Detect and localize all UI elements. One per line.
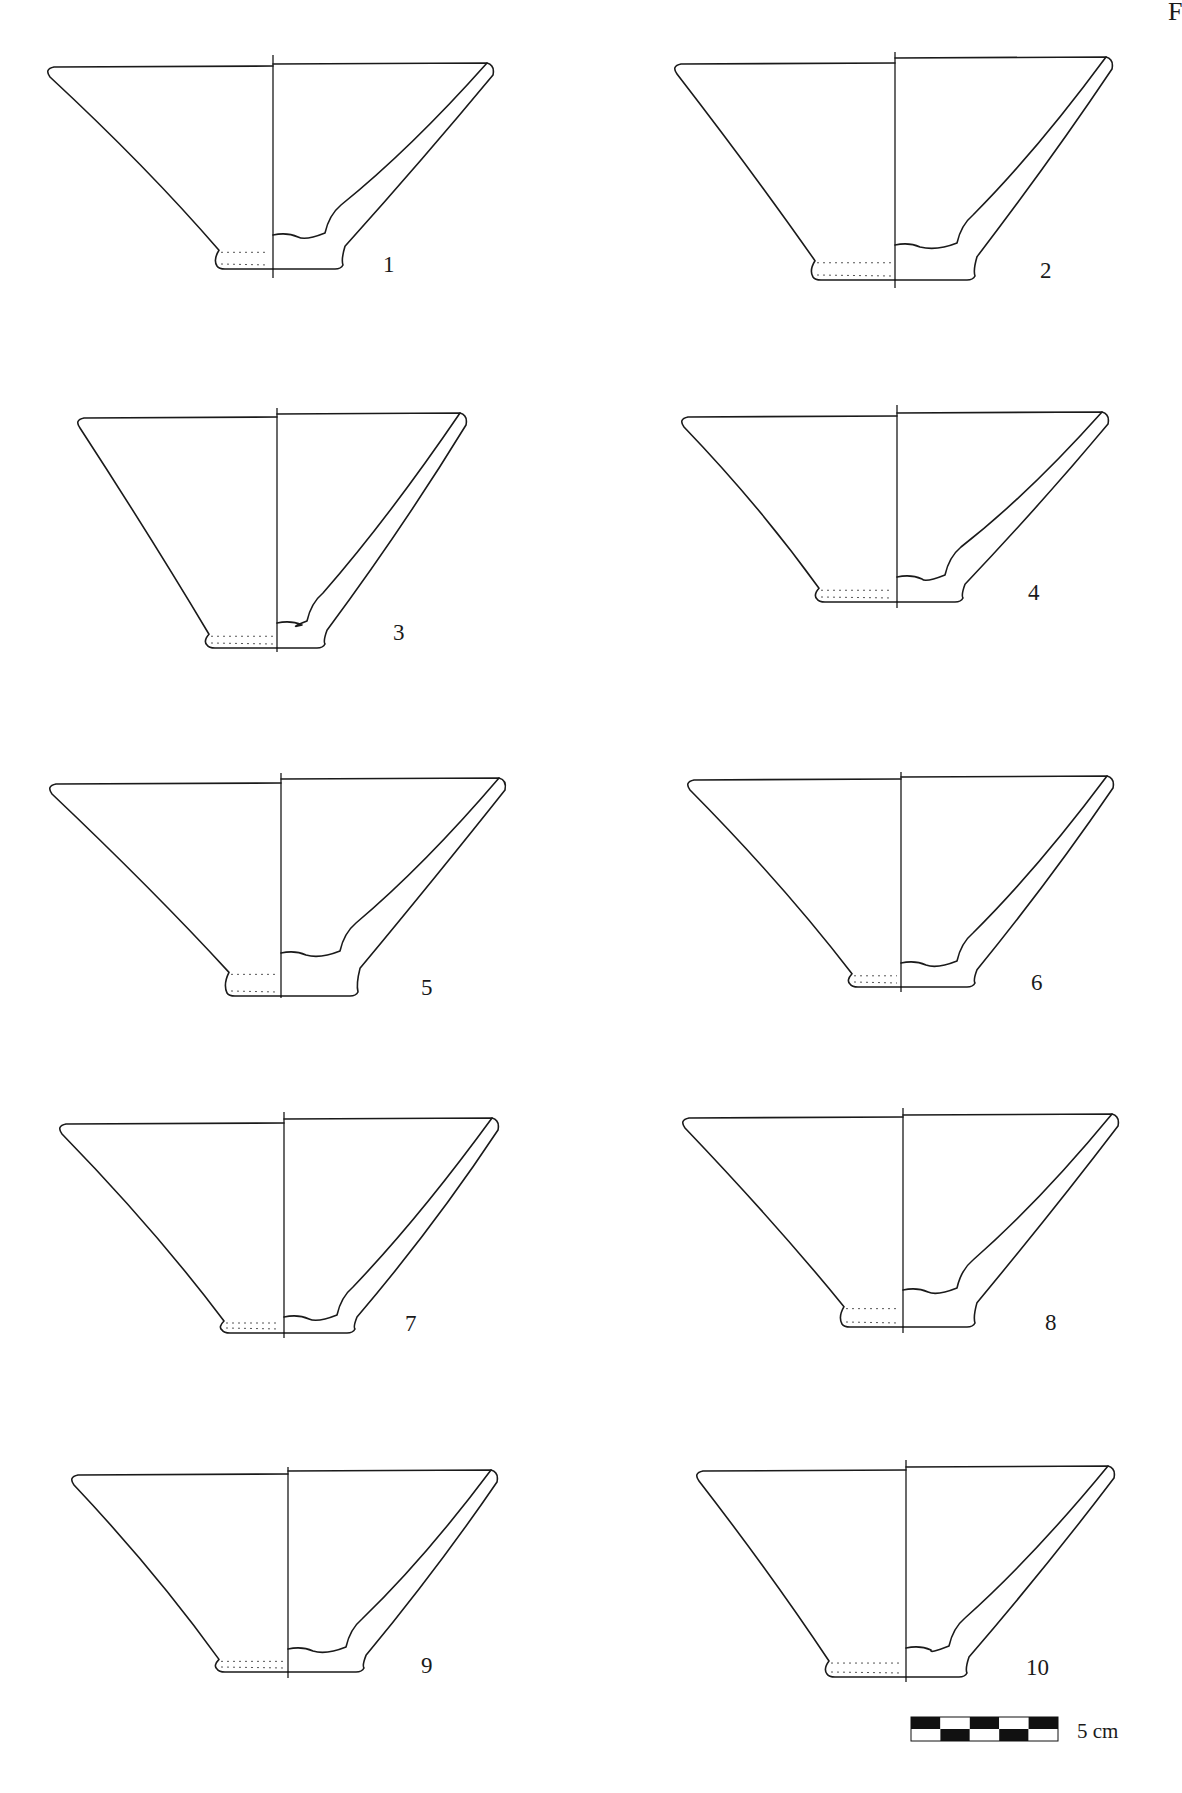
scale-bar-cell bbox=[970, 1717, 999, 1729]
figure-number-label: 7 bbox=[405, 1311, 417, 1336]
bowl-section-outer bbox=[288, 1470, 497, 1672]
bowl-figure: 4 bbox=[682, 405, 1109, 608]
bowl-exterior-profile bbox=[48, 66, 273, 269]
foot-band-dotted bbox=[831, 1672, 902, 1673]
ceramic-bowl-plate: F 12345678910 5 cm bbox=[0, 0, 1182, 1793]
figure-number-label: 4 bbox=[1028, 580, 1040, 605]
figure-number-label: 6 bbox=[1031, 970, 1043, 995]
figure-number-label: 8 bbox=[1045, 1310, 1057, 1335]
bowl-figure: 7 bbox=[60, 1112, 499, 1338]
bowl-exterior-profile bbox=[78, 417, 277, 648]
bowl-figure: 9 bbox=[72, 1467, 498, 1678]
bowl-section-inner bbox=[897, 412, 1102, 580]
scale-bar-cell bbox=[1029, 1717, 1058, 1729]
scale-bar-label: 5 cm bbox=[1077, 1719, 1118, 1743]
bowl-section-inner bbox=[273, 63, 487, 238]
page-mark: F bbox=[1168, 0, 1182, 26]
figure-number-label: 5 bbox=[421, 975, 433, 1000]
bowl-section-outer bbox=[277, 413, 466, 648]
foot-band-dotted bbox=[817, 275, 891, 276]
bowl-exterior-profile bbox=[682, 416, 897, 602]
foot-band-dotted bbox=[211, 643, 273, 644]
bowl-section-outer bbox=[901, 776, 1113, 987]
bowl-exterior-profile bbox=[675, 63, 895, 280]
scale-bar-cell bbox=[940, 1717, 969, 1729]
scale-bar-cell bbox=[1029, 1729, 1058, 1741]
bowl-figure: 3 bbox=[78, 408, 467, 652]
bowl-section-inner bbox=[281, 778, 499, 956]
bowl-exterior-profile bbox=[50, 783, 281, 996]
bowl-section-outer bbox=[906, 1466, 1114, 1677]
bowl-section-inner bbox=[906, 1466, 1108, 1651]
foot-band-dotted bbox=[854, 982, 897, 983]
bowl-figure: 1 bbox=[48, 55, 494, 278]
bowl-figure: 5 bbox=[50, 773, 506, 1000]
foot-band-dotted bbox=[221, 264, 269, 265]
bowl-figure: 10 bbox=[697, 1460, 1115, 1682]
figure-number-label: 3 bbox=[393, 620, 405, 645]
bowl-exterior-profile bbox=[60, 1123, 284, 1333]
figure-number-label: 9 bbox=[421, 1653, 433, 1678]
foot-band-dotted bbox=[846, 1322, 899, 1323]
bowl-section-inner bbox=[895, 57, 1106, 248]
foot-band-dotted bbox=[821, 597, 893, 598]
scale-bar-cell bbox=[999, 1717, 1028, 1729]
bowl-section-inner bbox=[284, 1118, 492, 1320]
scale-bar: 5 cm bbox=[911, 1717, 1118, 1743]
foot-band-dotted bbox=[226, 1328, 280, 1329]
bowl-figure: 6 bbox=[688, 772, 1114, 995]
figure-number-label: 10 bbox=[1026, 1655, 1049, 1680]
foot-band-dotted bbox=[221, 1667, 284, 1668]
bowl-exterior-profile bbox=[72, 1474, 288, 1672]
scale-bar-cell bbox=[999, 1729, 1028, 1741]
bowl-section-inner bbox=[277, 413, 460, 626]
scale-bar-cell bbox=[940, 1729, 969, 1741]
bowl-figure: 8 bbox=[683, 1108, 1119, 1335]
bowl-figure: 2 bbox=[675, 52, 1113, 288]
scale-bar-cell bbox=[911, 1717, 940, 1729]
foot-band-dotted bbox=[231, 991, 277, 992]
bowl-exterior-profile bbox=[697, 1470, 906, 1677]
scale-bar-cell bbox=[970, 1729, 999, 1741]
bowl-profiles: 12345678910 bbox=[48, 52, 1119, 1682]
figure-number-label: 1 bbox=[383, 252, 395, 277]
bowl-section-outer bbox=[284, 1118, 498, 1333]
bowl-exterior-profile bbox=[683, 1117, 903, 1327]
bowl-section-inner bbox=[901, 776, 1107, 966]
bowl-exterior-profile bbox=[688, 779, 901, 987]
scale-bar-segments bbox=[911, 1717, 1058, 1741]
scale-bar-cell bbox=[911, 1729, 940, 1741]
bowl-section-outer bbox=[903, 1114, 1118, 1327]
bowl-section-inner bbox=[288, 1470, 491, 1652]
bowl-section-outer bbox=[281, 778, 505, 996]
figure-number-label: 2 bbox=[1040, 258, 1052, 283]
